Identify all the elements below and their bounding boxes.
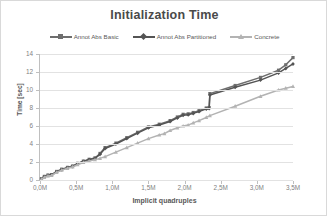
x-tick-label: 0,0M [20, 184, 60, 191]
gridline-horizontal [40, 162, 293, 163]
legend-item-2[interactable]: Concrete [230, 32, 279, 41]
legend-label: Concrete [254, 33, 279, 40]
plot-area [40, 54, 293, 180]
y-tick-mark [36, 54, 39, 55]
y-tick-label: 8 [11, 104, 33, 111]
series-line [41, 58, 293, 179]
legend-item-0[interactable]: Annot Abs Basic [50, 32, 119, 41]
series-concrete [39, 84, 295, 180]
gridline-horizontal [40, 72, 293, 73]
y-tick-mark [36, 144, 39, 145]
y-tick-mark [36, 126, 39, 127]
legend-symbol-diamond-icon [133, 32, 155, 41]
square-marker [284, 63, 287, 66]
gridline-horizontal [40, 126, 293, 127]
y-tick-label: 10 [11, 86, 33, 93]
legend-symbol-triangle-icon [230, 32, 252, 41]
y-tick-mark [36, 108, 39, 109]
x-tick-label: 1,5M [128, 184, 168, 191]
y-tick-mark [36, 180, 39, 181]
x-tick-label: 0,5M [56, 184, 96, 191]
gridline-horizontal [40, 54, 293, 55]
series-line [41, 86, 293, 179]
gridline-horizontal [40, 144, 293, 145]
x-tick-label: 2,0M [165, 184, 205, 191]
x-tick-label: 3,0M [237, 184, 277, 191]
x-tick-label: 1,0M [92, 184, 132, 191]
gridline-horizontal [40, 90, 293, 91]
legend-symbol-square-icon [50, 32, 72, 41]
y-tick-label: 0 [11, 176, 33, 183]
chart-title: Initialization Time [1, 8, 327, 22]
legend-item-1[interactable]: Annot Abs Partitioned [133, 32, 217, 41]
y-tick-mark [36, 90, 39, 91]
legend-marker [140, 33, 147, 40]
y-tick-mark [36, 162, 39, 163]
legend-label: Annot Abs Partitioned [157, 33, 217, 40]
y-tick-label: 2 [11, 158, 33, 165]
x-tick-label: 2,5M [201, 184, 241, 191]
gridline-horizontal [40, 180, 293, 181]
x-tick-label: 3,5M [273, 184, 313, 191]
y-tick-label: 14 [11, 50, 33, 57]
chart-legend: Annot Abs BasicAnnot Abs PartitionedConc… [1, 32, 327, 41]
legend-marker [238, 34, 244, 39]
x-axis-title: Implicit quadruples [1, 197, 327, 204]
y-axis-title: Time [sec] [16, 70, 23, 130]
y-tick-label: 6 [11, 122, 33, 129]
legend-marker [58, 34, 63, 39]
legend-label: Annot Abs Basic [74, 33, 119, 40]
square-marker [291, 56, 294, 59]
y-tick-label: 4 [11, 140, 33, 147]
gridline-horizontal [40, 108, 293, 109]
chart-container: Initialization Time Annot Abs BasicAnnot… [0, 0, 327, 216]
y-tick-label: 12 [11, 68, 33, 75]
y-tick-mark [36, 72, 39, 73]
